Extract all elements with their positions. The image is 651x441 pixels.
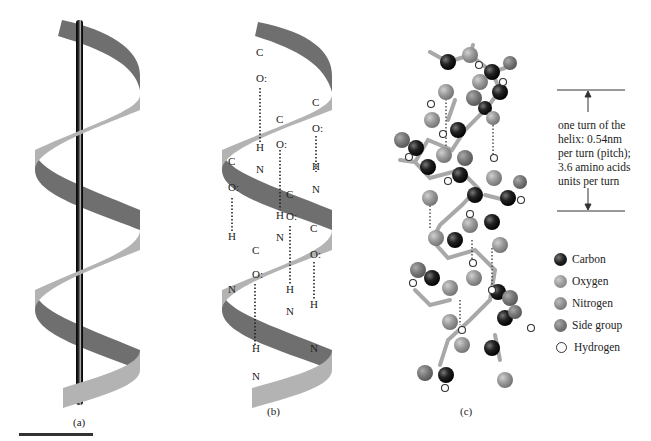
svg-text:H: H <box>276 209 284 221</box>
caption-a: (a) <box>73 416 85 428</box>
svg-text:C: C <box>310 222 317 234</box>
svg-text:O:: O: <box>256 72 267 84</box>
panel-a-helix <box>35 20 140 408</box>
svg-text:N: N <box>252 370 260 382</box>
annotation-line: units per turn <box>558 174 650 188</box>
svg-text:N: N <box>310 342 318 354</box>
annotation-line: 3.6 amino acids <box>558 160 650 174</box>
legend-item-side-group: Side group <box>554 314 622 336</box>
svg-text:N: N <box>286 305 294 317</box>
svg-text:N: N <box>256 163 264 175</box>
svg-text:O:: O: <box>310 248 321 260</box>
svg-text:C: C <box>286 188 293 200</box>
panel-b-helix: C O: H N C O: H N C O: H N C O: H N C O:… <box>222 22 332 408</box>
svg-text:H: H <box>256 141 264 153</box>
caption-c: (c) <box>460 405 472 417</box>
alpha-helix-figure: C O: H N C O: H N C O: H N C O: H N C O:… <box>0 0 651 441</box>
annotation-line: per turn (pitch); <box>558 146 650 160</box>
legend-item-nitrogen: Nitrogen <box>554 292 622 314</box>
carbon-ball-icon <box>554 253 567 266</box>
legend-item-carbon: Carbon <box>554 248 622 270</box>
svg-text:H: H <box>310 298 318 310</box>
svg-text:O:: O: <box>228 181 239 193</box>
scale-bar <box>19 433 93 436</box>
atom-legend: Carbon Oxygen Nitrogen Side group Hydrog… <box>554 248 622 358</box>
svg-text:O:: O: <box>312 122 323 134</box>
svg-text:H: H <box>228 230 236 242</box>
svg-text:C: C <box>276 113 283 125</box>
svg-text:O:: O: <box>276 138 287 150</box>
pitch-annotation: one turn of the helix: 0.54nm per turn (… <box>558 118 650 188</box>
svg-text:C: C <box>252 244 259 256</box>
svg-text:O:: O: <box>286 210 297 222</box>
caption-b: (b) <box>267 405 280 417</box>
helix-axis-rod <box>76 20 83 405</box>
svg-text:N: N <box>228 283 236 295</box>
hydrogen-ball-icon <box>556 342 567 353</box>
annotation-line: helix: 0.54nm <box>558 132 650 146</box>
svg-text:N: N <box>276 231 284 243</box>
annotation-line: one turn of the <box>558 118 650 132</box>
svg-text:O:: O: <box>252 268 263 280</box>
svg-text:H: H <box>286 283 294 295</box>
svg-text:C: C <box>312 96 319 108</box>
atoms <box>394 47 527 388</box>
panel-c-ball-and-stick <box>394 45 535 392</box>
legend-item-hydrogen: Hydrogen <box>554 336 622 358</box>
svg-text:C: C <box>228 155 235 167</box>
side-group-ball-icon <box>554 319 567 332</box>
svg-text:H: H <box>312 160 320 172</box>
oxygen-ball-icon <box>554 275 567 288</box>
nitrogen-ball-icon <box>554 297 567 310</box>
svg-text:C: C <box>256 46 263 58</box>
svg-text:H: H <box>252 342 260 354</box>
svg-text:N: N <box>312 183 320 195</box>
legend-item-oxygen: Oxygen <box>554 270 622 292</box>
